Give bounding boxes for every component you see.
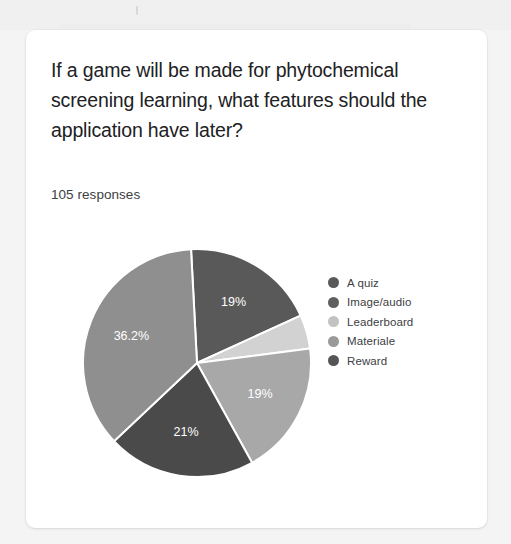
pie-slice-group (83, 249, 311, 477)
pie-chart: 19%19%21%36.2% (81, 247, 313, 479)
legend-color-swatch-icon (328, 355, 339, 366)
legend-item[interactable]: Leaderboard (328, 312, 478, 332)
legend-item[interactable]: Reward (328, 351, 478, 371)
legend-item-label: A quiz (347, 277, 379, 289)
legend-item[interactable]: Image/audio (328, 293, 478, 313)
scan-speck (136, 6, 138, 15)
scan-speck (60, 24, 410, 28)
pie-chart-container: 19%19%21%36.2% A quizImage/audioLeaderbo… (26, 225, 487, 515)
legend-item-label: Leaderboard (347, 316, 413, 328)
pie-slice-label: 19% (247, 387, 272, 401)
response-summary-card: If a game will be made for phytochemical… (26, 30, 487, 528)
legend-color-swatch-icon (328, 297, 339, 308)
legend-item[interactable]: Materiale (328, 332, 478, 352)
legend-item-label: Materiale (347, 335, 395, 347)
page-title: If a game will be made for phytochemical… (51, 55, 451, 145)
legend-item-label: Reward (347, 355, 387, 367)
pie-chart-svg: 19%19%21%36.2% (81, 247, 313, 479)
pie-slice-label: 36.2% (114, 329, 149, 343)
pie-slice-label: 21% (174, 425, 199, 439)
legend-item[interactable]: A quiz (328, 273, 478, 293)
legend-item-label: Image/audio (347, 296, 411, 308)
legend-color-swatch-icon (328, 316, 339, 327)
pie-slice-label: 19% (221, 295, 246, 309)
response-count-label: 105 responses (51, 187, 140, 202)
chart-legend: A quizImage/audioLeaderboardMaterialeRew… (328, 273, 478, 371)
legend-color-swatch-icon (328, 277, 339, 288)
legend-color-swatch-icon (328, 336, 339, 347)
